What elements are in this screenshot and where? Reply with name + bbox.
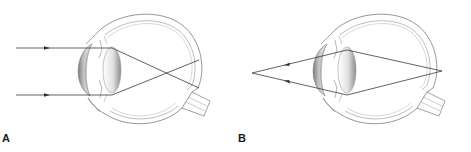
- eye-refraction-diagram: A B: [0, 0, 471, 152]
- panel-label-a: A: [2, 133, 10, 144]
- panel-b-eye: [313, 14, 445, 124]
- arrow-icon: [284, 63, 290, 67]
- panel-a-eye: [78, 14, 210, 124]
- arrow-icon: [44, 46, 50, 49]
- arrow-icon: [44, 93, 50, 96]
- panel-label-b: B: [238, 133, 246, 144]
- diagram-canvas: [0, 0, 471, 152]
